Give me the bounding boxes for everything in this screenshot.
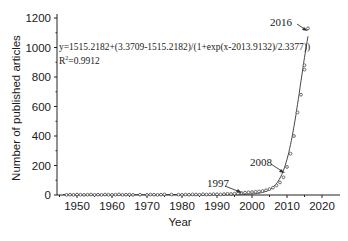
x-tick-label: 2010 <box>274 200 300 212</box>
data-points <box>65 27 309 196</box>
data-point <box>191 193 194 196</box>
data-point <box>156 193 159 196</box>
data-point <box>296 111 299 114</box>
data-point <box>149 193 152 196</box>
data-point <box>303 64 306 67</box>
data-point <box>209 193 212 196</box>
data-point <box>107 193 110 196</box>
data-point <box>72 193 75 196</box>
data-point <box>198 193 201 196</box>
y-axis-title: Number of published articles <box>10 35 22 181</box>
data-point <box>125 193 128 196</box>
annotation-1997: 1997 <box>207 177 242 193</box>
data-point <box>100 193 103 196</box>
data-point <box>146 193 149 196</box>
x-tick-label: 1950 <box>64 200 90 212</box>
y-tick-label: 800 <box>32 71 51 83</box>
x-tick-label: 1960 <box>99 200 125 212</box>
y-axis: 020040060080010001200 <box>25 12 57 201</box>
data-point <box>282 176 285 179</box>
data-point <box>307 27 310 30</box>
data-point <box>97 193 100 196</box>
data-point <box>275 184 278 187</box>
data-point <box>86 193 89 196</box>
data-point <box>219 193 222 196</box>
data-point <box>226 192 229 195</box>
x-axis-title: Year <box>168 216 191 228</box>
y-tick-label: 600 <box>32 101 51 113</box>
y-tick-label: 200 <box>32 160 51 172</box>
y-tick-label: 0 <box>45 189 51 201</box>
data-point <box>293 135 296 138</box>
data-point <box>254 190 257 193</box>
data-point <box>265 189 268 192</box>
data-point <box>195 193 198 196</box>
data-point <box>212 193 215 196</box>
data-point <box>93 193 96 196</box>
data-point <box>237 192 240 195</box>
data-point <box>216 193 219 196</box>
data-point <box>261 190 264 193</box>
data-point <box>272 186 275 189</box>
data-point <box>230 193 233 196</box>
data-point <box>181 193 184 196</box>
data-point <box>268 188 271 191</box>
data-point <box>170 193 173 196</box>
data-point <box>83 193 86 196</box>
annotation-2016: 2016 <box>270 16 308 31</box>
data-point <box>121 193 124 196</box>
data-point <box>300 93 303 96</box>
data-point <box>184 193 187 196</box>
fit-equation: y=1515.2182+(3.3709-1515.2182)/(1+exp(x-… <box>59 42 310 53</box>
x-tick-label: 1990 <box>204 200 230 212</box>
data-point <box>251 191 254 194</box>
logistic-fit-chart: 020040060080010001200 195019601970198019… <box>0 0 348 241</box>
data-point <box>205 193 208 196</box>
svg-text:2008: 2008 <box>250 156 273 168</box>
x-tick-label: 1980 <box>169 200 195 212</box>
x-tick-label: 2000 <box>239 200 265 212</box>
data-point <box>247 191 250 194</box>
data-point <box>303 68 306 71</box>
data-point <box>233 192 236 195</box>
data-point <box>244 191 247 194</box>
r-squared-label: R2=0.9912 <box>59 55 100 66</box>
data-point <box>104 193 107 196</box>
data-point <box>65 193 68 196</box>
data-point <box>69 193 72 196</box>
data-point <box>223 193 226 196</box>
data-point <box>188 193 191 196</box>
data-point <box>118 193 121 196</box>
data-point <box>139 193 142 196</box>
y-tick-label: 400 <box>32 130 51 142</box>
data-point <box>114 193 117 196</box>
data-point <box>163 193 166 196</box>
data-point <box>177 193 180 196</box>
data-point <box>160 193 163 196</box>
svg-text:2016: 2016 <box>270 16 293 28</box>
data-point <box>153 193 156 196</box>
data-point <box>111 193 114 196</box>
svg-text:1997: 1997 <box>207 177 230 189</box>
data-point <box>132 193 135 196</box>
data-point <box>202 193 205 196</box>
data-point <box>286 166 289 169</box>
x-axis: 19501960197019801990200020102020 <box>57 195 340 212</box>
y-tick-label: 1200 <box>25 12 51 24</box>
data-point <box>79 193 82 196</box>
data-point <box>76 193 79 196</box>
data-point <box>279 181 282 184</box>
data-point <box>258 190 261 193</box>
data-point <box>289 152 292 155</box>
y-tick-label: 1000 <box>25 42 51 54</box>
x-tick-label: 2020 <box>309 200 335 212</box>
x-tick-label: 1970 <box>134 200 160 212</box>
data-point <box>128 193 131 196</box>
data-point <box>90 193 93 196</box>
annotation-2008: 2008 <box>250 156 285 173</box>
